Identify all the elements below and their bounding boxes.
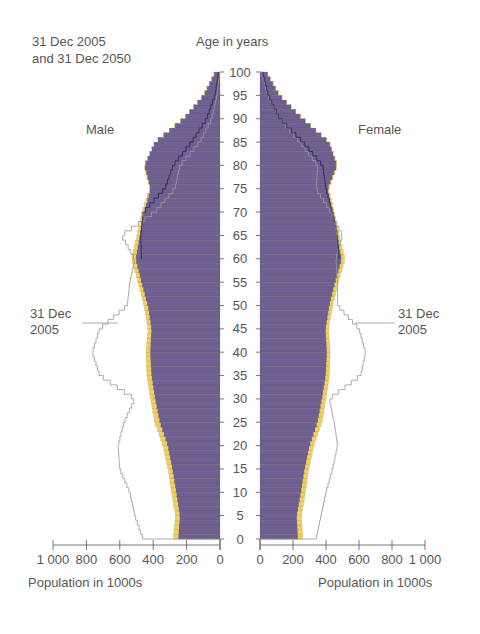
male-2050-bar [139,240,220,245]
female-2050-bar [260,245,339,250]
male-2050-bar [148,175,220,180]
male-2050-bar [171,460,220,465]
female-2050-bar [260,235,337,240]
female-2050-bar [260,254,341,259]
female-2050-bar [260,464,305,469]
female-2050-bar [260,161,336,166]
female-2050-bar [260,436,312,441]
male-2050-bar [151,329,220,334]
age-tick-label: 100 [229,65,251,80]
age-tick-label: 40 [233,345,247,360]
population-pyramid-chart: 0510152025303540455055606570758085909510… [0,0,480,634]
male-2050-bar [153,385,220,390]
male-2050-bar [161,422,220,427]
male-2050-bar [142,221,220,226]
age-tick-label: 95 [233,88,247,103]
x-tick-label-right: 1 000 [409,552,442,567]
male-2050-bar [146,170,220,175]
male-2050-bar [140,231,220,236]
male-2050-bar [157,404,220,409]
male-2050-bar [139,268,220,273]
x-tick-label-right: 600 [348,552,370,567]
female-2050-bar [260,259,341,264]
male-2050-bar [150,320,220,325]
male-2050-bar [156,399,220,404]
male-2050-bar [150,189,220,194]
male-2050-bar [170,455,220,460]
age-tick-label: 30 [233,391,247,406]
female-2050-bar [260,530,298,535]
female-2050-bar [260,179,330,184]
x-tick-label-left: 0 [216,552,223,567]
female-2050-bar [260,348,327,353]
female-2050-bar [260,231,336,236]
male-2050-bar [146,296,220,301]
x-tick-label-right: 800 [381,552,403,567]
male-2050-bar [190,109,220,114]
female-2050-bar [260,81,273,86]
male-2050-bar [151,362,220,367]
female-2050-bar [260,483,302,488]
x-tick-label-left: 800 [76,552,98,567]
male-2050-bar [154,142,220,147]
male-2050-bar [177,497,220,502]
male-2050-bar [141,277,220,282]
male-2050-bar [179,530,220,535]
female-2050-bar [260,329,326,334]
female-2050-bar [260,193,329,198]
female-2050-bar [260,291,332,296]
female-2050-bar [260,310,328,315]
female-2050-bar [260,119,305,124]
male-2050-bar [174,474,220,479]
female-2050-bar [260,432,313,437]
female-2050-bar [260,137,326,142]
female-2050-bar [260,380,325,385]
male-2050-bar [153,380,220,385]
male-2050-bar [181,119,220,124]
female-2050-bar [260,394,322,399]
female-2050-bar [260,455,307,460]
male-2050-bar [158,137,220,142]
male-2050-bar [198,100,220,105]
male-2050-bar [151,343,220,348]
male-2050-bar [136,254,220,259]
male-2050-bar [180,516,220,521]
female-2050-bar [260,212,333,217]
female-2050-bar [260,217,334,222]
female-2050-bar [260,334,326,339]
male-2050-bar [164,133,220,138]
male-2050-bar [151,338,220,343]
female-2050-bar [260,404,321,409]
female-2050-bar [260,506,298,511]
female-2050-bar [260,72,268,77]
x-tick-label-right: 200 [282,552,304,567]
female-2050-bar [260,469,304,474]
female-2050-bar [260,151,333,156]
male-2050-bar [194,105,220,110]
male-2050-bar [177,492,220,497]
female-2050-bar [260,338,326,343]
female-2050-bar [260,142,330,147]
male-2050-bar [169,450,220,455]
age-tick-label: 90 [233,111,247,126]
male-2050-bar [174,478,220,483]
female-2050-bar [260,492,300,497]
female-2050-bar [260,91,278,96]
male-2050-bar [155,394,220,399]
female-2050-bar [260,147,331,152]
female-2050-bar [260,352,327,357]
female-2050-bar [260,357,326,362]
female-2050-bar [260,385,324,390]
female-2050-bar [260,399,321,404]
age-tick-label: 75 [233,181,247,196]
male-2050-bar [151,324,220,329]
female-2050-bar [260,324,326,329]
x-tick-label-left: 1 000 [37,552,70,567]
female-2050-bar [260,376,325,381]
age-tick-label: 70 [233,205,247,220]
female-2050-bar [260,306,329,311]
female-2050-bar [260,114,300,119]
male-2050-bar [148,306,220,311]
male-2050-bar [145,207,220,212]
age-tick-label: 20 [233,438,247,453]
